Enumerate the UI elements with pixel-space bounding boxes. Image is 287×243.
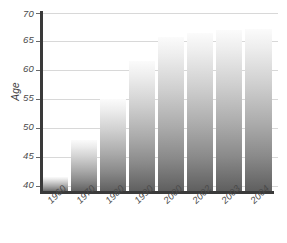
y-tick-label-45: 45 (12, 150, 34, 161)
y-tick-label-55: 55 (12, 92, 34, 103)
x-axis-labels: 1960 1970 1980 1990 2000 2002 2003 2004 (42, 198, 282, 242)
y-tick-label-60: 60 (12, 63, 34, 74)
bar-1990[interactable] (129, 61, 155, 192)
y-axis-line (40, 11, 43, 194)
bar-1980[interactable] (100, 99, 126, 192)
bar-chart: Age 70 65 60 55 50 45 40 1960 1970 1980 … (0, 0, 287, 243)
plot-area (42, 12, 272, 192)
bar-2003[interactable] (216, 30, 242, 192)
bar-1970[interactable] (71, 140, 97, 192)
bar-2004[interactable] (245, 29, 272, 192)
bar-2002[interactable] (187, 33, 213, 192)
bar-2000[interactable] (158, 37, 184, 192)
y-tick-label-65: 65 (12, 34, 34, 45)
y-tick-label-40: 40 (12, 179, 34, 190)
y-tick-label-70: 70 (12, 8, 34, 19)
y-tick-label-50: 50 (12, 121, 34, 132)
